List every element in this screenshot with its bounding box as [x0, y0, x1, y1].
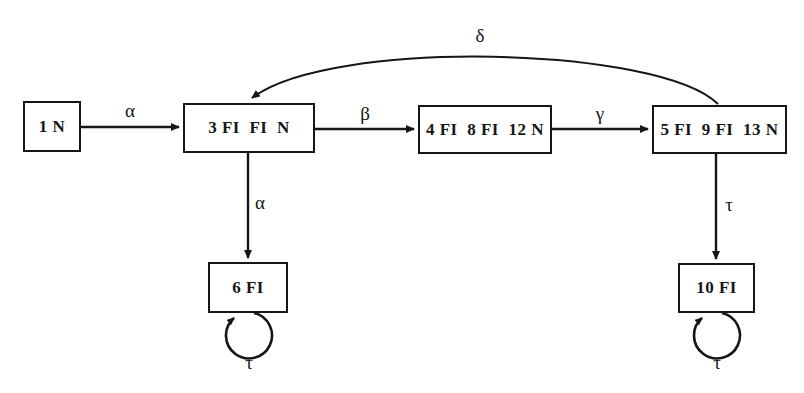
edge-label-tau-5-10: τ [719, 195, 739, 214]
node-box-4[interactable]: 4 FI 8 FI 12 N [418, 105, 552, 154]
edge-label-tau-loop-10: τ [707, 353, 727, 372]
node-box-10[interactable]: 10 FI [678, 263, 755, 313]
node-box-3[interactable]: 3 FI FI N [183, 103, 315, 153]
node-label: 1 N [39, 117, 66, 137]
node-label: 4 FI 8 FI 12 N [426, 120, 544, 140]
edge-label-gamma-4-5: γ [590, 104, 610, 123]
node-box-1[interactable]: 1 N [23, 101, 81, 152]
node-label: 5 FI 9 FI 13 N [660, 120, 778, 140]
node-box-6[interactable]: 6 FI [208, 262, 288, 313]
edge-label-alpha-3-6: α [250, 193, 270, 212]
node-label: 6 FI [232, 278, 264, 298]
edge-label-tau-loop-6: τ [239, 353, 259, 372]
edge-label-beta-3-4: β [355, 104, 375, 123]
edge-path-delta-5-3 [252, 57, 718, 104]
diagram-canvas: 1 N 3 FI FI N 4 FI 8 FI 12 N 5 FI 9 FI 1… [0, 0, 804, 393]
edge-label-alpha-1-3: α [120, 101, 140, 120]
node-label: 10 FI [696, 278, 737, 298]
edge-label-delta-5-3: δ [470, 26, 490, 45]
diagram-edges-layer [0, 0, 804, 393]
node-box-5[interactable]: 5 FI 9 FI 13 N [652, 105, 787, 154]
node-label: 3 FI FI N [208, 118, 290, 138]
